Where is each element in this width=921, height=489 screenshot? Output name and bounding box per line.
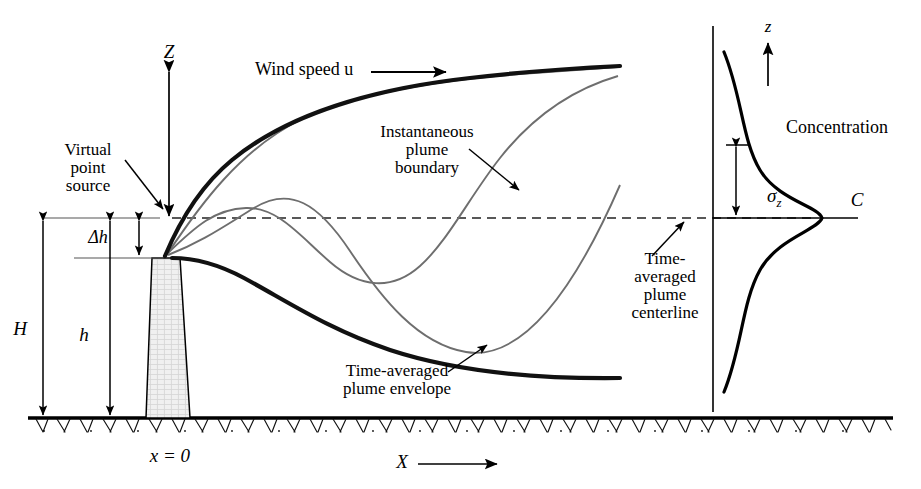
x-origin-label: x = 0	[140, 446, 200, 466]
profile-c-axis-label: C	[843, 190, 871, 210]
h-label: h	[70, 325, 98, 345]
sigma-subscript: z	[776, 195, 781, 210]
sigma-z-dimension	[726, 145, 748, 215]
instantaneous-plume-boundary-label: Instantaneous plume boundary	[356, 123, 498, 177]
ground-line	[28, 418, 893, 432]
wind-speed-label: Wind speed u	[255, 60, 373, 79]
instantaneous-plume-boundary-lower	[168, 185, 620, 353]
z-axis-label: Z	[154, 42, 184, 62]
instantaneous-plume-boundary-wavy	[168, 76, 618, 283]
x-axis-label: X	[388, 452, 416, 472]
concentration-label: Concentration	[786, 118, 916, 137]
profile-z-axis-label: z	[754, 18, 782, 36]
sigma-z-label: σz	[748, 166, 794, 230]
sigma-symbol: σ	[767, 185, 776, 206]
figure-canvas: Z Wind speed u Virtual point source Inst…	[0, 0, 921, 489]
time-averaged-plume-envelope-label: Time-averaged plume envelope	[318, 362, 476, 398]
virtual-point-source-label: Virtual point source	[40, 141, 136, 195]
time-averaged-plume-centerline-label: Time- averaged plume centerline	[619, 250, 711, 322]
plume-diagram-svg	[0, 0, 921, 489]
delta-h-label: Δh	[76, 228, 120, 247]
H-label: H	[6, 319, 34, 339]
smokestack	[146, 258, 190, 418]
